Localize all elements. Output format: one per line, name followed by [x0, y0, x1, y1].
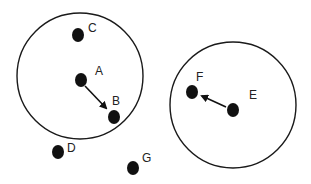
- point-f: F: [186, 70, 203, 99]
- point-d: D: [52, 141, 76, 159]
- point-c: C: [72, 21, 97, 42]
- label-a: A: [95, 64, 103, 78]
- point-a: A: [75, 64, 103, 87]
- label-g: G: [142, 151, 151, 165]
- label-b: B: [112, 94, 120, 108]
- diagram-canvas: A B C D E F G: [0, 0, 311, 184]
- point-g: G: [127, 151, 151, 175]
- label-e: E: [249, 88, 257, 102]
- arrow-a-to-b: [85, 86, 106, 108]
- arrow-e-to-f: [202, 96, 226, 107]
- label-c: C: [88, 21, 97, 35]
- point-b: B: [108, 94, 120, 124]
- label-f: F: [196, 70, 203, 84]
- point-e: E: [227, 88, 257, 117]
- label-d: D: [67, 141, 76, 155]
